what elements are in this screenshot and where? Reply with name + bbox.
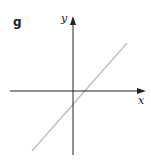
x-axis-arrow-icon (137, 88, 146, 94)
graph-canvas (0, 0, 151, 161)
graph-line (32, 43, 127, 151)
y-axis-arrow-icon (70, 16, 76, 25)
